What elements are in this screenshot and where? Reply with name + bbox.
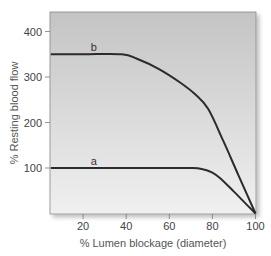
x-tick-label: 100 — [246, 220, 264, 232]
x-tick-label: 20 — [77, 220, 89, 232]
curve-label-b: b — [91, 41, 97, 53]
x-tick-label: 40 — [120, 220, 132, 232]
y-axis: 100200300400 — [24, 26, 50, 175]
y-tick-label: 400 — [24, 26, 42, 38]
x-axis: 20406080100 — [77, 214, 265, 232]
x-tick-label: 60 — [163, 220, 175, 232]
y-tick-label: 200 — [24, 117, 42, 129]
chart: 100200300400 20406080100 ba % Lumen bloc… — [0, 0, 271, 256]
y-axis-title: % Resting blood flow — [8, 62, 20, 165]
y-tick-label: 300 — [24, 71, 42, 83]
y-tick-label: 100 — [24, 162, 42, 174]
curve-label-a: a — [91, 155, 98, 167]
x-axis-title: % Lumen blockage (diameter) — [80, 237, 227, 249]
x-tick-label: 80 — [206, 220, 218, 232]
